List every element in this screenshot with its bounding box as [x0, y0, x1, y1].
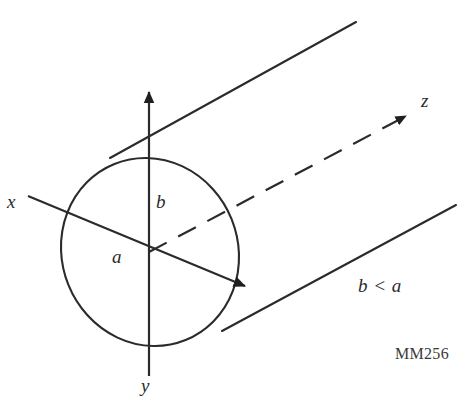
z-axis-line [149, 116, 406, 252]
figure-code-label: MM256 [395, 346, 449, 362]
figure-canvas: x y z a b b < a MM256 [0, 0, 464, 405]
y-axis-label: y [141, 376, 149, 395]
semi-minor-axis-label: b [156, 192, 166, 211]
semi-major-axis-label: a [112, 247, 122, 266]
z-axis-label: z [421, 91, 428, 110]
axis-relation-label: b < a [358, 276, 402, 295]
cylinder-top-edge [110, 22, 356, 158]
x-axis-label: x [7, 192, 15, 211]
cylinder-bottom-edge [222, 205, 456, 331]
